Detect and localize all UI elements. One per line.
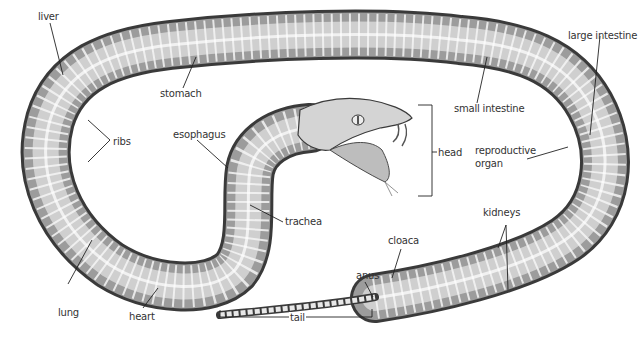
bracket-head (418, 105, 432, 196)
label-stomach: stomach (160, 88, 202, 99)
label-esophagus: esophagus (173, 129, 225, 140)
label-small-intestine: small intestine (454, 103, 524, 114)
label-reproductive-organ-line2: organ (475, 158, 503, 169)
snake-head (298, 98, 412, 196)
leader-esophagus (197, 140, 228, 168)
leader-ribs (88, 120, 110, 162)
snake-anatomy-diagram: liver stomach ribs esophagus trachea lun… (0, 0, 644, 343)
label-reproductive-organ-line1: reproductive (475, 145, 536, 156)
label-head: head (438, 147, 462, 158)
label-lung: lung (58, 307, 79, 318)
label-anus: anus (356, 270, 379, 281)
label-heart: heart (129, 311, 155, 322)
label-cloaca: cloaca (388, 235, 419, 246)
snake-illustration (0, 0, 644, 343)
snake-body (46, 35, 605, 298)
label-tail: tail (289, 312, 306, 323)
label-kidneys: kidneys (483, 207, 520, 218)
label-trachea: trachea (285, 216, 322, 227)
label-liver: liver (38, 11, 59, 22)
label-large-intestine: large intestine (568, 30, 637, 41)
label-ribs: ribs (113, 136, 131, 147)
